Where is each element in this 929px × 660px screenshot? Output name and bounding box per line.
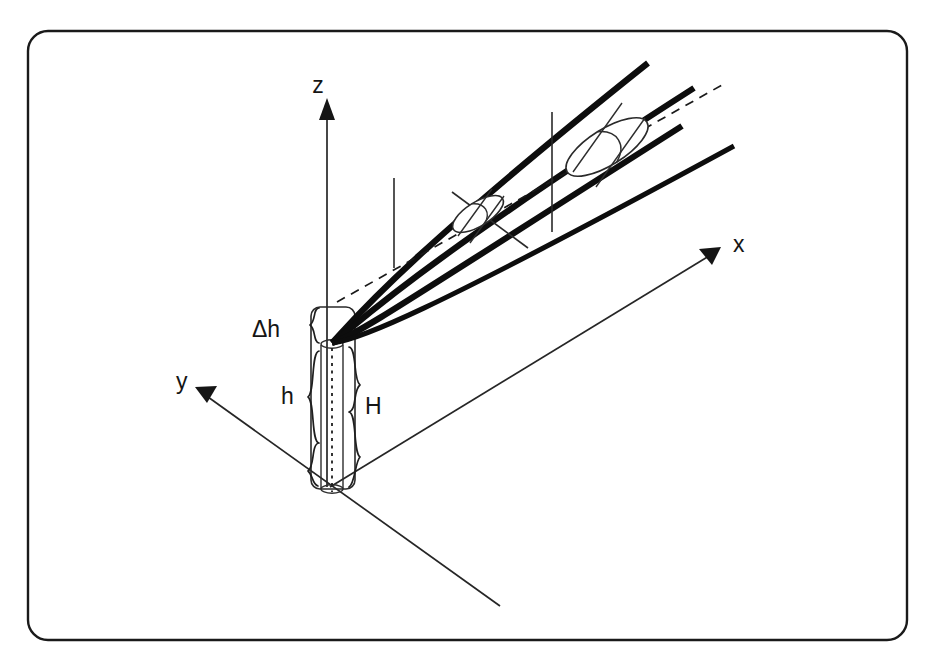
axis-group-y [195, 386, 500, 606]
h-brace [308, 351, 319, 486]
x-axis-line [330, 256, 709, 487]
figure-frame [28, 31, 907, 640]
x-axis-arrowhead [699, 247, 721, 265]
z-axis-arrowhead [319, 98, 335, 120]
figure-container: z x y Δh h H [0, 0, 929, 660]
delta-h-label: Δh [252, 316, 280, 342]
h-label: h [281, 383, 294, 409]
y-axis-label: y [176, 368, 188, 394]
x-axis-label: x [733, 231, 745, 257]
H-label: H [365, 393, 382, 419]
z-axis-label: z [312, 72, 324, 98]
beam-fan [332, 63, 734, 343]
schematic-diagram: z x y Δh h H [0, 0, 929, 660]
beam-ray-3 [332, 126, 682, 343]
